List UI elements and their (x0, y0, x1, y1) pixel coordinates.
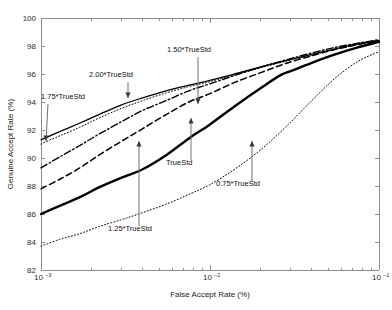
curve-truestd (41, 42, 379, 214)
annotation-label: TrueStd (166, 158, 192, 167)
annotation-1-25-truestd: 1.25*TrueStd (108, 141, 152, 233)
annotation-label: 1.25*TrueStd (108, 224, 152, 233)
annotation-arrow-head (188, 118, 193, 124)
annotation-0-75-truestd: 0.75*TrueStd (216, 141, 260, 188)
annotation-arrow-head (125, 93, 130, 99)
svg-text:−1: −1 (383, 272, 389, 278)
y-tick-label: 84 (27, 238, 36, 247)
annotation-label: 2.00*TrueStd (89, 70, 133, 79)
annotation-label: 1.75*TrueStd (41, 92, 85, 101)
svg-text:10: 10 (203, 273, 212, 282)
svg-text:10: 10 (34, 273, 43, 282)
y-tick-label: 86 (27, 210, 36, 219)
annotation-truestd: TrueStd (166, 118, 194, 167)
x-axis-title: False Accept Rate (%) (170, 290, 250, 299)
annotation-arrow-head (195, 99, 200, 105)
annotation-2-00-truestd: 2.00*TrueStd (89, 70, 133, 98)
svg-text:−3: −3 (45, 272, 51, 278)
annotation-arrow-head (249, 141, 254, 147)
figure-canvas: 82848688909294969810010−310−210−1 1.75*T… (0, 0, 392, 310)
y-tick-label: 96 (27, 70, 36, 79)
x-tick-label: 10−2 (203, 272, 220, 283)
svg-text:−2: −2 (214, 272, 220, 278)
y-tick-label: 88 (27, 182, 36, 191)
annotation-arrow-shaft (46, 104, 48, 141)
annotation-label: 1.50*TrueStd (167, 45, 211, 54)
x-tick-label: 10−1 (372, 272, 389, 283)
annotation-arrow-head (136, 141, 141, 147)
svg-text:10: 10 (372, 273, 381, 282)
annotation-1-50-truestd: 1.50*TrueStd (167, 45, 211, 104)
curve-1-50-truestd (41, 40, 379, 168)
y-tick-label: 90 (27, 154, 36, 163)
annotation-1-75-truestd: 1.75*TrueStd (41, 92, 85, 141)
y-tick-label: 94 (27, 98, 36, 107)
roc-chart: 82848688909294969810010−310−210−1 1.75*T… (0, 0, 392, 310)
y-axis-title: Genuine Accept Rate (%) (6, 99, 15, 190)
y-tick-label: 92 (27, 126, 36, 135)
y-tick-label: 100 (23, 14, 37, 23)
x-tick-label: 10−3 (34, 272, 51, 283)
axis-titles-layer: False Accept Rate (%)Genuine Accept Rate… (6, 99, 250, 299)
annotation-label: 0.75*TrueStd (216, 179, 260, 188)
curve-1-25-truestd (41, 41, 379, 189)
annotations-layer: 1.75*TrueStd2.00*TrueStd1.50*TrueStd1.25… (41, 45, 260, 233)
y-tick-label: 98 (27, 42, 36, 51)
